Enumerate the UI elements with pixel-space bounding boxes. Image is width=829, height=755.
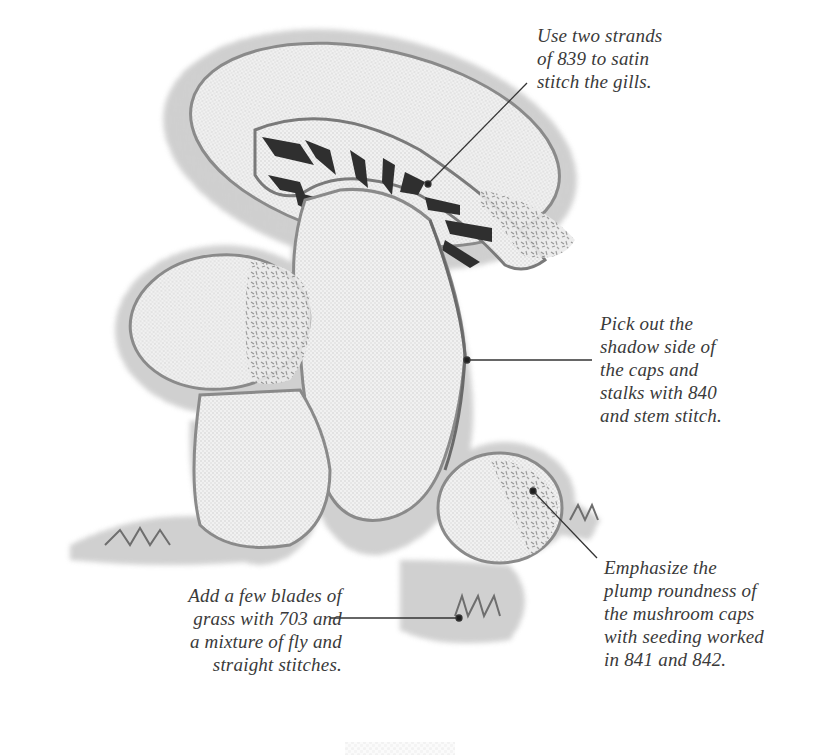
- small-right-mushroom: [438, 453, 562, 563]
- annotation-line: and stem stitch.: [600, 404, 722, 427]
- annotation-line: Add a few blades of: [120, 584, 342, 607]
- annotation-line: a mixture of fly and: [120, 630, 342, 653]
- annotation-line: Emphasize the: [604, 556, 764, 579]
- annotation-line: with seeding worked: [604, 625, 764, 648]
- annotation-line: shadow side of: [600, 335, 722, 358]
- annotation-line: Use two strands: [537, 24, 662, 47]
- annotation-line: grass with 703 and: [120, 607, 342, 630]
- annotation-line: in 841 and 842.: [604, 648, 764, 671]
- small-left-mushroom: [123, 246, 330, 548]
- annotation-grass: Add a few blades of grass with 703 and a…: [120, 584, 342, 676]
- annotation-line: the mushroom caps: [604, 602, 764, 625]
- annotation-seeding: Emphasize the plump roundness of the mus…: [604, 556, 764, 671]
- bottom-fabric-fade: [345, 742, 455, 755]
- annotation-line: stalks with 840: [600, 381, 722, 404]
- annotation-line: plump roundness of: [604, 579, 764, 602]
- annotation-line: straight stitches.: [120, 653, 342, 676]
- annotation-shadow-side: Pick out the shadow side of the caps and…: [600, 312, 722, 427]
- annotation-line: Pick out the: [600, 312, 722, 335]
- annotation-line: stitch the gills.: [537, 70, 662, 93]
- annotation-line: of 839 to satin: [537, 47, 662, 70]
- annotation-line: the caps and: [600, 358, 722, 381]
- annotation-gills: Use two strands of 839 to satin stitch t…: [537, 24, 662, 93]
